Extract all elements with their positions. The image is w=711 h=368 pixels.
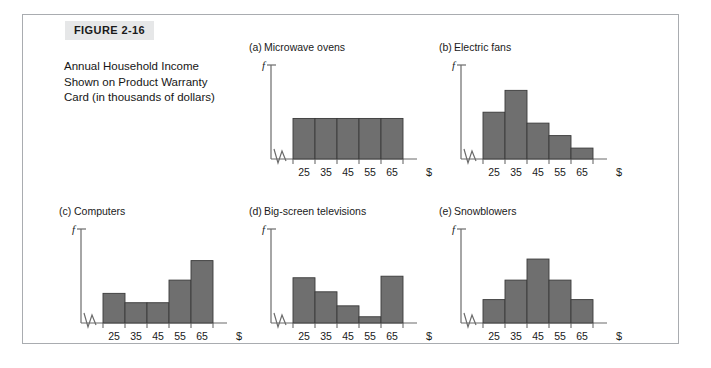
bar <box>293 278 315 323</box>
x-tick-label: 65 <box>196 330 208 342</box>
chart-panel-d: (d)Big-screen televisions f 2535455565$ <box>249 205 439 350</box>
bar <box>103 293 125 323</box>
bar <box>381 118 403 159</box>
x-tick-label: 45 <box>342 330 354 342</box>
panel-label-e: (e) <box>439 205 454 217</box>
panel-label-c: (c) <box>59 205 74 217</box>
figure-frame: FIGURE 2-16 Annual Household Income Show… <box>22 14 679 344</box>
panel-name-e: Snowblowers <box>454 205 516 217</box>
x-tick-label: 35 <box>130 330 142 342</box>
bar <box>381 276 403 323</box>
bar <box>549 136 571 159</box>
histogram-svg-a: 2535455565$ <box>263 59 435 179</box>
chart-title-d: (d)Big-screen televisions <box>249 205 366 217</box>
x-tick-label: 25 <box>298 330 310 342</box>
x-tick-label: 35 <box>510 166 522 178</box>
panel-name-d: Big-screen televisions <box>264 205 366 217</box>
histogram-svg-d: 2535455565$ <box>263 223 435 343</box>
x-tick-label: 65 <box>386 330 398 342</box>
panel-label-d: (d) <box>249 205 264 217</box>
caption-line-2: Shown on Product Warranty <box>64 75 259 91</box>
caption-line-3: Card (in thousands of dollars) <box>64 90 259 106</box>
chart-panel-c: (c)Computers f 2535455565$ <box>59 205 249 350</box>
bar <box>505 90 527 159</box>
x-axis-unit-label: $ <box>616 166 622 178</box>
bar <box>147 303 169 323</box>
x-tick-label: 55 <box>174 330 186 342</box>
panel-name-b: Electric fans <box>454 41 511 53</box>
panel-label-a: (a) <box>249 41 264 53</box>
x-tick-label: 55 <box>554 166 566 178</box>
figure-caption: Annual Household Income Shown on Product… <box>64 59 259 106</box>
x-tick-label: 45 <box>342 166 354 178</box>
plot-area-c: f 2535455565$ <box>73 223 245 343</box>
chart-title-e: (e)Snowblowers <box>439 205 516 217</box>
y-axis-label-a: f <box>262 59 265 71</box>
x-tick-label: 65 <box>386 166 398 178</box>
x-axis-unit-label: $ <box>616 330 622 342</box>
x-tick-label: 35 <box>320 330 332 342</box>
bar <box>169 280 191 323</box>
panel-name-c: Computers <box>74 205 125 217</box>
bar <box>359 317 381 323</box>
x-tick-label: 55 <box>364 330 376 342</box>
x-tick-label: 25 <box>298 166 310 178</box>
bar <box>483 112 505 159</box>
chart-title-b: (b)Electric fans <box>439 41 511 53</box>
y-axis-label-b: f <box>452 59 455 71</box>
x-tick-label: 25 <box>488 330 500 342</box>
bar <box>293 118 315 159</box>
bar <box>315 118 337 159</box>
bar <box>337 118 359 159</box>
caption-line-1: Annual Household Income <box>64 59 259 75</box>
x-tick-label: 45 <box>152 330 164 342</box>
x-tick-label: 35 <box>320 166 332 178</box>
panel-name-a: Microwave ovens <box>264 41 345 53</box>
chart-panel-a: (a)Microwave ovens f 2535455565$ <box>249 41 439 186</box>
x-tick-label: 25 <box>108 330 120 342</box>
x-tick-label: 35 <box>510 330 522 342</box>
x-tick-label: 65 <box>576 330 588 342</box>
bar <box>505 280 527 323</box>
y-axis-label-e: f <box>452 223 455 235</box>
bar <box>125 303 147 323</box>
chart-panel-b: (b)Electric fans f 2535455565$ <box>439 41 629 186</box>
x-tick-label: 25 <box>488 166 500 178</box>
plot-area-e: f 2535455565$ <box>453 223 625 343</box>
bar <box>571 300 593 323</box>
x-axis-unit-label: $ <box>426 330 432 342</box>
x-tick-label: 45 <box>532 166 544 178</box>
bar <box>527 259 549 323</box>
chart-title-a: (a)Microwave ovens <box>249 41 345 53</box>
figure-number-badge: FIGURE 2-16 <box>65 21 154 40</box>
histogram-svg-c: 2535455565$ <box>73 223 245 343</box>
x-tick-label: 55 <box>364 166 376 178</box>
x-tick-label: 45 <box>532 330 544 342</box>
bar <box>527 123 549 159</box>
plot-area-d: f 2535455565$ <box>263 223 435 343</box>
histogram-svg-e: 2535455565$ <box>453 223 625 343</box>
y-axis-label-d: f <box>262 223 265 235</box>
y-axis-label-c: f <box>72 223 75 235</box>
chart-panel-e: (e)Snowblowers f 2535455565$ <box>439 205 629 350</box>
x-axis-unit-label: $ <box>236 330 242 342</box>
plot-area-b: f 2535455565$ <box>453 59 625 179</box>
bar <box>191 261 213 323</box>
x-tick-label: 65 <box>576 166 588 178</box>
panel-label-b: (b) <box>439 41 454 53</box>
plot-area-a: f 2535455565$ <box>263 59 435 179</box>
x-tick-label: 55 <box>554 330 566 342</box>
bar <box>549 280 571 323</box>
bar <box>315 292 337 323</box>
chart-title-c: (c)Computers <box>59 205 125 217</box>
bar <box>483 300 505 323</box>
x-axis-unit-label: $ <box>426 166 432 178</box>
bar <box>571 148 593 159</box>
bar <box>359 118 381 159</box>
histogram-svg-b: 2535455565$ <box>453 59 625 179</box>
bar <box>337 306 359 323</box>
